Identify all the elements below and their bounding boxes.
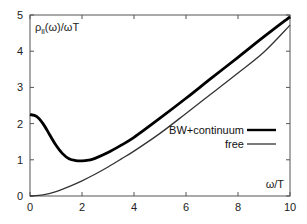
plot-frame [30,15,290,196]
x-tick-label: 2 [79,201,85,213]
series-line-free [30,25,290,196]
y-axis: 012345 [17,9,290,202]
y-tick-label: 4 [17,45,23,57]
y-tick-label: 1 [17,154,23,166]
x-tick-label: 4 [131,201,137,213]
chart: 012345 0246810 ρll(ω)/ωT ω/T BW+continuu… [0,0,307,224]
y-axis-label: ρll(ω)/ωT [35,21,79,36]
x-tick-label: 8 [235,201,241,213]
legend-label-bw: BW+continuum [169,124,244,136]
y-tick-label: 2 [17,118,23,130]
legend-label-free: free [225,138,244,150]
x-tick-label: 10 [284,201,296,213]
series-line-bw-continuum [30,17,290,161]
x-axis-label: ω/T [266,178,285,190]
plot-series [30,17,290,196]
x-tick-label: 6 [183,201,189,213]
y-tick-label: 3 [17,81,23,93]
y-tick-label: 5 [17,9,23,21]
x-tick-label: 0 [27,201,33,213]
y-tick-label: 0 [17,190,23,202]
legend: BW+continuum free [169,124,276,150]
